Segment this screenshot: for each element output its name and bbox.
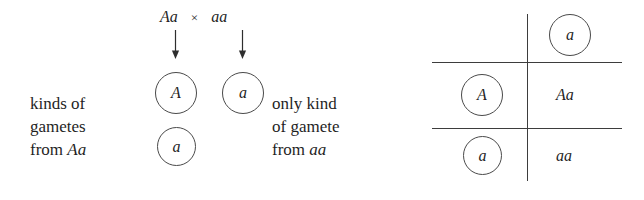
arrow-down-icon-left-parent — [170, 30, 181, 60]
gamete-allele-label: A — [171, 85, 181, 101]
middle-caption-line-3-genotype: aa — [309, 140, 326, 159]
arrow-down-icon-right-parent — [237, 30, 248, 60]
punnett-header-allele-label: A — [477, 87, 487, 103]
punnett-cell-genotype-label: Aa — [556, 86, 574, 103]
punnett-header-allele-label: a — [479, 147, 487, 163]
left-caption-line-2: gametes — [30, 115, 86, 138]
punnett-horizontal-rule-top — [432, 62, 622, 63]
middle-caption-line-2: of gamete — [272, 115, 340, 138]
middle-caption-line-1: only kind — [272, 92, 340, 115]
gamete-circle-left-parent-a: a — [157, 127, 196, 166]
left-caption-line-1: kinds of — [30, 92, 86, 115]
gamete-circle-left-parent-A: A — [155, 72, 197, 114]
gamete-allele-label: a — [239, 85, 247, 101]
cross-parent-left: Aa — [160, 8, 178, 26]
punnett-square-figure: { "figure": { "title": "Monohybrid testc… — [0, 0, 644, 200]
punnett-cell-genotype-label: aa — [556, 147, 572, 164]
left-caption-line-3: from Aa — [30, 138, 86, 161]
punnett-cell-aa: aa — [556, 147, 572, 165]
gamete-allele-label: a — [173, 138, 181, 154]
punnett-vertical-rule — [527, 14, 528, 181]
punnett-column-header-circle-a: a — [549, 14, 591, 56]
punnett-row-header-circle-A: A — [461, 74, 503, 116]
cross-parent-right: aa — [211, 8, 227, 26]
gamete-circle-right-parent-a: a — [222, 72, 264, 114]
punnett-cell-Aa: Aa — [556, 86, 574, 104]
middle-caption-line-3: from aa — [272, 138, 340, 161]
cross-operator-icon: × — [191, 10, 198, 26]
middle-caption: only kind of gamete from aa — [272, 92, 340, 161]
left-caption-line-3-genotype: Aa — [67, 140, 86, 159]
left-caption: kinds of gametes from Aa — [30, 92, 86, 161]
punnett-header-allele-label: a — [566, 27, 574, 43]
left-caption-line-3-prefix: from — [30, 140, 67, 159]
punnett-row-header-circle-a: a — [463, 136, 502, 175]
middle-caption-line-3-prefix: from — [272, 140, 309, 159]
punnett-horizontal-rule-bottom — [432, 128, 622, 129]
cross-header: Aa × aa — [160, 8, 227, 26]
